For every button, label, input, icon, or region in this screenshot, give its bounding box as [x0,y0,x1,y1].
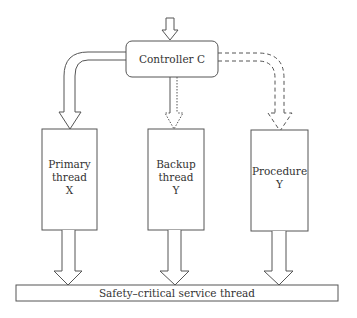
procedure-box[interactable]: Procedure Y [251,130,308,231]
controller-label: Controller C [139,53,205,65]
backup-label-line2: thread [158,171,193,183]
input-arrow [162,18,178,40]
backup-thread-box[interactable]: Backup thread Y [148,129,204,230]
primary-label-line1: Primary [48,158,91,170]
service-thread-bar[interactable]: Safety–critical service thread [16,285,338,301]
primary-output-arrow [54,230,82,285]
backup-output-arrow [160,230,189,285]
controller-box[interactable]: Controller C [126,41,218,77]
backup-label-line1: Backup [156,158,196,170]
architecture-diagram: Controller C Primary thread X Backup thr… [0,0,357,318]
service-thread-label: Safety–critical service thread [99,287,255,299]
backup-connector-arrow [165,77,183,129]
procedure-label-line2: Y [275,178,284,190]
procedure-connector-arrow [218,53,292,131]
procedure-label-line1: Procedure [252,165,307,177]
primary-thread-box[interactable]: Primary thread X [42,129,97,230]
primary-connector-arrow [59,52,126,129]
backup-label-line3: Y [172,184,181,196]
primary-label-line2: thread [52,171,87,183]
procedure-output-arrow [264,231,293,285]
primary-label-line3: X [66,184,74,196]
